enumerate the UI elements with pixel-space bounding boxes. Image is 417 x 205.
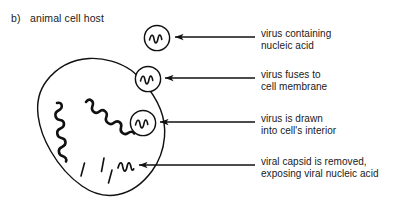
callout-line-1: virus containing [261, 28, 331, 40]
callout-viral-capsid-removed: viral capsid is removed, exposing viral … [261, 156, 379, 181]
callout-line-1: virus fuses to [261, 69, 327, 81]
virus-particle-free [144, 25, 169, 50]
figure-panel-b: b) animal cell host [0, 0, 417, 205]
callout-line-2: exposing viral nucleic acid [261, 168, 379, 180]
callout-line-2: nucleic acid [261, 40, 331, 52]
virus-particle-fusing [135, 66, 160, 91]
callout-virus-drawn-into-cell-interior: virus is drawn into cell's interior [261, 113, 336, 138]
callout-line-1: virus is drawn [261, 113, 336, 125]
callout-line-2: into cell's interior [261, 125, 336, 137]
callout-line-1: viral capsid is removed, [261, 156, 379, 168]
callout-line-2: cell membrane [261, 81, 327, 93]
virus-particle-internalized [130, 110, 155, 135]
callout-virus-fuses-to-cell-membrane: virus fuses to cell membrane [261, 69, 327, 94]
callout-virus-containing-nucleic-acid: virus containing nucleic acid [261, 28, 331, 53]
